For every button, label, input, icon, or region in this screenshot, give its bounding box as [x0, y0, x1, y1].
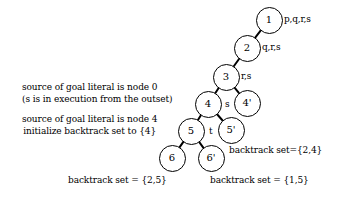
tree-node-4-prime-label: 4': [242, 98, 251, 108]
tree-node-5-prime-label: 5': [226, 125, 235, 135]
tree-node-6-label: 6: [169, 153, 175, 163]
tree-node-4[interactable]: 4: [195, 91, 222, 118]
tree-node-6-prime[interactable]: 6': [198, 145, 225, 172]
annotation-source-node-4: source of goal literal is node 4 initial…: [22, 114, 157, 137]
tree-node-4-prime[interactable]: 4': [234, 90, 261, 117]
tree-node-4-label: 4: [205, 99, 211, 109]
tree-node-5[interactable]: 5: [178, 118, 205, 145]
literal-label-node-2: q,r,s: [262, 42, 280, 52]
annotation-source-node-4-line-1: source of goal literal is node 4: [22, 114, 157, 126]
literal-label-node-1: p,q,r,s: [284, 14, 311, 24]
edge-label-t: t: [209, 126, 213, 136]
annotation-backtrack-set-2-4-line-1: backtrack set={2,4}: [229, 145, 322, 157]
annotation-backtrack-set-1-5-line-1: backtrack set = {1,5}: [210, 175, 309, 187]
tree-node-6[interactable]: 6: [159, 145, 186, 172]
annotation-source-node-0-line-1: source of goal literal is node 0: [22, 82, 172, 94]
tree-node-3-label: 3: [223, 72, 229, 82]
tree-node-2-label: 2: [244, 43, 250, 53]
tree-edge-n4-n5p: [217, 114, 223, 121]
literal-label-node-3: r,s: [241, 71, 251, 81]
annotation-backtrack-set-2-4: backtrack set={2,4}: [229, 145, 322, 157]
tree-node-1-label: 1: [266, 15, 272, 25]
annotation-source-node-0-line-2: (s is in execution from the outset): [22, 94, 172, 106]
tree-edge-n1-n2: [255, 30, 261, 38]
tree-node-6-prime-label: 6': [206, 153, 215, 163]
tree-node-1[interactable]: 1: [256, 7, 283, 34]
annotation-source-node-0: source of goal literal is node 0 (s is i…: [22, 82, 172, 105]
tree-node-2[interactable]: 2: [234, 35, 261, 62]
annotation-backtrack-set-1-5: backtrack set = {1,5}: [210, 175, 309, 187]
diagram-canvas: 1 2 3 4 4' 5 5' 6 6' p,q,r,s q,r,s r,s s…: [0, 0, 339, 197]
tree-node-5-label: 5: [188, 126, 194, 136]
annotation-backtrack-set-2-5: backtrack set = {2,5}: [68, 175, 167, 187]
tree-node-3[interactable]: 3: [213, 64, 240, 91]
annotation-backtrack-set-2-5-line-1: backtrack set = {2,5}: [68, 175, 167, 187]
tree-node-5-prime[interactable]: 5': [218, 117, 245, 144]
edge-label-s: s: [225, 99, 230, 109]
tree-edge-n2-n3: [234, 59, 240, 67]
annotation-source-node-4-line-2: initialize backtrack set to {4}: [22, 126, 157, 138]
